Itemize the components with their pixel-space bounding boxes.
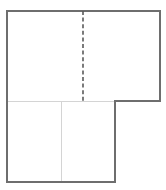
figure-stage bbox=[0, 0, 166, 190]
geometric-figure bbox=[0, 0, 166, 190]
